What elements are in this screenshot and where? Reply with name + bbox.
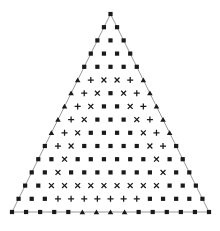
filled-square-marker <box>108 12 112 16</box>
lattice-row-16 <box>10 209 211 214</box>
filled-square-marker <box>174 144 178 148</box>
filled-triangle-marker <box>167 130 173 135</box>
filled-square-marker <box>89 131 93 135</box>
filled-triangle-marker <box>94 209 100 214</box>
filled-square-marker <box>135 170 139 174</box>
filled-square-marker <box>43 170 47 174</box>
filled-square-marker <box>168 157 172 161</box>
plus-marker <box>127 77 133 83</box>
plus-marker <box>94 196 100 202</box>
filled-square-marker <box>95 38 99 42</box>
x-cross-marker <box>75 130 80 135</box>
lattice-row-9 <box>55 117 166 123</box>
filled-square-marker <box>102 131 106 135</box>
filled-triangle-marker <box>49 130 55 135</box>
filled-square-marker <box>23 184 27 188</box>
filled-square-marker <box>82 144 86 148</box>
filled-square-marker <box>200 197 204 201</box>
lattice-row-2 <box>102 25 119 29</box>
x-cross-marker <box>128 104 133 109</box>
plus-marker <box>88 77 94 83</box>
x-cross-marker <box>95 91 100 96</box>
lattice-row-4 <box>89 52 133 56</box>
filled-square-marker <box>102 157 106 161</box>
lattice-row-3 <box>95 38 125 42</box>
filled-square-marker <box>194 184 198 188</box>
x-cross-marker <box>75 183 80 188</box>
lattice-row-11 <box>43 143 179 149</box>
filled-square-marker <box>10 210 14 214</box>
filled-square-marker <box>95 118 99 122</box>
plus-marker <box>134 196 140 202</box>
x-cross-marker <box>101 183 106 188</box>
filled-square-marker <box>122 38 126 42</box>
filled-square-marker <box>43 197 47 201</box>
filled-square-marker <box>137 210 141 214</box>
filled-square-marker <box>95 65 99 69</box>
x-cross-marker <box>88 104 93 109</box>
filled-square-marker <box>122 65 126 69</box>
filled-square-marker <box>174 197 178 201</box>
filled-square-marker <box>161 197 165 201</box>
x-cross-marker <box>147 144 152 149</box>
filled-square-marker <box>36 157 40 161</box>
plus-marker <box>81 196 87 202</box>
filled-square-marker <box>128 157 132 161</box>
plus-marker <box>147 117 153 123</box>
filled-square-marker <box>108 38 112 42</box>
filled-triangle-marker <box>80 209 86 214</box>
filled-square-marker <box>102 25 106 29</box>
filled-square-marker <box>108 91 112 95</box>
plus-marker <box>107 196 113 202</box>
filled-square-marker <box>36 184 40 188</box>
filled-square-marker <box>174 170 178 174</box>
filled-square-marker <box>95 170 99 174</box>
filled-square-marker <box>108 65 112 69</box>
filled-square-marker <box>128 52 132 56</box>
plus-marker <box>81 90 87 96</box>
filled-square-marker <box>69 170 73 174</box>
filled-square-marker <box>115 25 119 29</box>
lattice-row-1 <box>108 12 112 16</box>
filled-square-marker <box>187 197 191 201</box>
x-cross-marker <box>62 157 67 162</box>
x-cross-marker <box>56 170 61 175</box>
x-cross-marker <box>121 91 126 96</box>
filled-triangle-marker <box>160 117 166 122</box>
x-cross-marker <box>82 117 87 122</box>
filled-square-marker <box>115 157 119 161</box>
filled-square-marker <box>89 52 93 56</box>
plus-marker <box>160 143 166 149</box>
plus-marker <box>75 103 81 109</box>
x-cross-marker <box>161 170 166 175</box>
filled-square-marker <box>168 184 172 188</box>
filled-square-marker <box>66 210 70 214</box>
filled-square-marker <box>30 197 34 201</box>
plus-marker <box>153 130 159 136</box>
x-cross-marker <box>128 183 133 188</box>
filled-square-marker <box>128 131 132 135</box>
filled-square-marker <box>141 157 145 161</box>
plus-marker <box>68 117 74 123</box>
filled-square-marker <box>95 144 99 148</box>
filled-square-marker <box>24 210 28 214</box>
filled-square-marker <box>115 104 119 108</box>
filled-square-marker <box>108 118 112 122</box>
filled-square-marker <box>122 118 126 122</box>
x-cross-marker <box>154 157 159 162</box>
filled-square-marker <box>76 157 80 161</box>
filled-triangle-marker <box>154 104 160 109</box>
filled-square-marker <box>148 197 152 201</box>
filled-square-marker <box>207 210 211 214</box>
filled-square-marker <box>89 157 93 161</box>
filled-square-marker <box>135 144 139 148</box>
filled-square-marker <box>148 170 152 174</box>
x-cross-marker <box>154 183 159 188</box>
filled-square-marker <box>52 210 56 214</box>
filled-square-marker <box>102 104 106 108</box>
filled-square-marker <box>30 170 34 174</box>
lattice-row-14 <box>23 183 198 188</box>
plus-marker <box>140 103 146 109</box>
filled-square-marker <box>187 170 191 174</box>
filled-square-marker <box>165 210 169 214</box>
